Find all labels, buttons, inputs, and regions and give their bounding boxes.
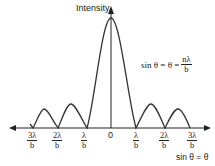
tick-left-1: λ b — [81, 131, 87, 150]
tick-denominator: b — [190, 141, 194, 150]
y-axis-label: Intensity — [76, 3, 110, 13]
tick-left-3: 3λ b — [27, 131, 37, 150]
tick-right-2: 2λ b — [159, 131, 169, 150]
tick-left-2: 2λ b — [52, 131, 62, 150]
center-tick-label: 0 — [108, 130, 113, 140]
formula: sin θ = θ = nλ b — [141, 55, 192, 74]
x-axis-label: sin θ = θ — [176, 152, 208, 162]
tick-denominator: b — [55, 141, 59, 150]
tick-denominator: b — [82, 141, 86, 150]
tick-denominator: b — [162, 141, 166, 150]
tick-right-1: λ b — [133, 131, 139, 150]
formula-denominator: b — [184, 65, 188, 74]
formula-lhs: sin θ = θ = — [141, 60, 179, 70]
tick-denominator: b — [134, 141, 138, 150]
x-axis-left-arrow-icon — [9, 125, 16, 131]
tick-right-3: 3λ b — [187, 131, 197, 150]
x-axis-right-arrow-icon — [204, 125, 211, 131]
tick-denominator: b — [30, 141, 34, 150]
formula-fraction: nλ b — [181, 55, 191, 74]
